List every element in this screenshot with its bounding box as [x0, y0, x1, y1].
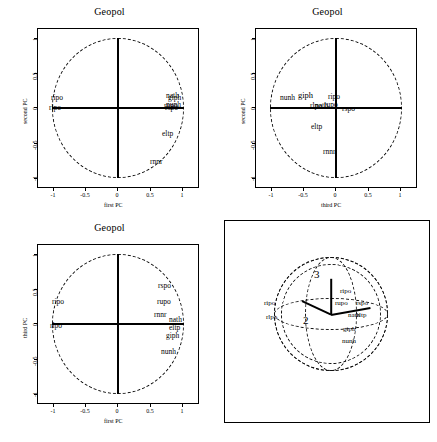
figure-canvas: Geopol -1 -0.5 0 0.5 1 first PC 1 0.5 0 …: [0, 0, 437, 442]
x-tick-label: 0.5: [146, 408, 154, 414]
variable-label: giph: [298, 91, 313, 100]
y-tick-label: 0: [32, 323, 38, 326]
variable-label: rnnr: [154, 311, 167, 319]
variable-label: rupo: [157, 298, 171, 306]
x-axis-label: first PC: [104, 418, 123, 424]
x-tick-label: -1: [51, 192, 56, 198]
x-axis-label: first PC: [104, 202, 123, 208]
variable-label: rupo: [324, 101, 338, 109]
y-tick-label: -1: [32, 176, 38, 181]
variable-label: eltp: [162, 130, 173, 138]
panel-title: Geopol: [0, 6, 219, 17]
panel-title: Geopol: [0, 222, 219, 233]
vertical-axis-line: [117, 254, 119, 394]
variable-label: nunh: [161, 348, 176, 356]
variable-label: eltp: [311, 123, 322, 131]
y-tick-label: -1: [250, 176, 256, 181]
variable-label: giph: [166, 332, 179, 340]
variable-label: nunh: [280, 94, 295, 102]
variable-label: rspo: [158, 282, 171, 290]
variable-label: rnnr: [323, 148, 336, 156]
y-tick-label: 0.5: [32, 289, 38, 297]
y-tick-label: 0.5: [32, 73, 38, 81]
y-axis-label: second PC: [240, 99, 246, 125]
y-tick-label: -0.5: [250, 141, 256, 151]
y-tick-label: 0: [32, 107, 38, 110]
axis-3-line: [330, 279, 332, 315]
panel-top-right: Geopol -1 -0.5 0 0.5 1 third PC 1 0.5 0 …: [218, 6, 437, 220]
variable-label: ripo: [51, 94, 63, 102]
vertical-axis-line: [117, 38, 119, 178]
x-tick-label: 0.5: [364, 192, 372, 198]
y-tick-label: -0.5: [32, 357, 38, 367]
variable-label: rnnr: [150, 158, 163, 166]
y-axis-label: third PC: [22, 318, 28, 338]
variable-label: ripo: [340, 288, 351, 295]
x-tick-label: -0.5: [80, 192, 90, 198]
variable-label: eltp: [356, 312, 367, 319]
y-tick-label: 0: [250, 107, 256, 110]
x-tick-label: 1: [181, 192, 184, 198]
variable-label: giph: [343, 326, 355, 333]
sphere-projection: 3 2 ripo rlpo ripo rupo rspo nath eltp g…: [218, 222, 437, 440]
axis-number-3: 3: [314, 268, 320, 280]
x-tick-label: 0: [116, 408, 119, 414]
x-tick-label: 0: [116, 192, 119, 198]
x-tick-label: -1: [269, 192, 274, 198]
x-tick-label: 0.5: [146, 192, 154, 198]
variable-label: rupo: [335, 300, 348, 307]
panel-bottom-right: 3 2 ripo rlpo ripo rupo rspo nath eltp g…: [218, 222, 437, 440]
panel-title: Geopol: [218, 6, 437, 17]
x-tick-label: 1: [399, 192, 402, 198]
variable-label: rlpo: [49, 104, 61, 112]
panel-bottom-left: Geopol -1 -0.5 0 0.5 1 first PC 1 0.5 0 …: [0, 222, 219, 440]
x-tick-label: -0.5: [298, 192, 308, 198]
y-tick-label: 1: [250, 38, 256, 41]
y-tick-label: -0.5: [32, 141, 38, 151]
variable-label: ripo: [264, 300, 275, 307]
variable-label: rlpo: [266, 314, 277, 321]
x-tick-label: -1: [51, 408, 56, 414]
panel-top-left: Geopol -1 -0.5 0 0.5 1 first PC 1 0.5 0 …: [0, 6, 219, 220]
y-tick-label: -1: [32, 392, 38, 397]
axis-number-2: 2: [303, 314, 309, 326]
variable-label: nunh: [342, 338, 356, 345]
x-axis-label: third PC: [321, 202, 341, 208]
variable-label: rspo: [356, 300, 368, 307]
x-tick-label: 0: [334, 192, 337, 198]
variable-label: rlpo: [50, 322, 62, 330]
y-tick-label: 1: [32, 38, 38, 41]
y-axis-label: second PC: [22, 99, 28, 125]
y-tick-label: 1: [32, 254, 38, 257]
variable-label: rspo: [165, 104, 178, 112]
x-tick-label: 1: [181, 408, 184, 414]
variable-label: ripo: [52, 298, 64, 306]
x-tick-label: -0.5: [80, 408, 90, 414]
y-tick-label: 0.5: [250, 73, 256, 81]
variable-label: rspo: [342, 105, 355, 113]
